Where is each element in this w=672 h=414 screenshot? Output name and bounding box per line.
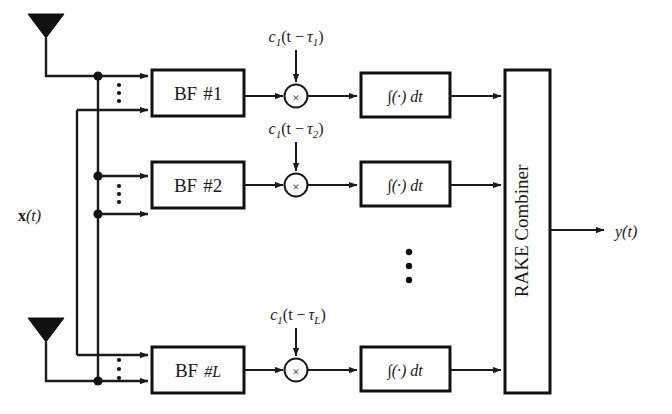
branch-ellipsis: [406, 249, 412, 283]
output-signal-label: y(t): [613, 223, 637, 241]
beamformer-label-L: BF#L: [175, 360, 221, 381]
input-signal-label: x(t): [18, 207, 41, 225]
beamformer-box-2[interactable]: [152, 162, 244, 208]
svg-text:x(t): x(t): [18, 207, 41, 225]
multiplier-symbol-2: ×: [292, 179, 299, 194]
rake-combiner-label: RAKE Combiner: [511, 164, 532, 297]
block-diagram-figure: x(t) BF#1 c1(t −τ1) × ∫(·) dt: [0, 0, 672, 414]
integrator-label-L: ∫(·) dt: [386, 362, 423, 381]
input-signal-label-vector: x: [18, 207, 26, 224]
branch-2-input-ellipsis: [117, 184, 121, 204]
canvas-background: [0, 0, 672, 414]
multiplier-symbol-1: ×: [292, 90, 299, 105]
integrator-label-2: ∫(·) dt: [386, 177, 423, 196]
rake-combiner[interactable]: RAKE Combiner: [505, 70, 550, 393]
branch-L-input-ellipsis: [117, 358, 121, 380]
input-signal-label-arg: (t): [26, 207, 41, 225]
branch-1-input-ellipsis: [117, 83, 121, 103]
integrator-label-1: ∫(·) dt: [386, 88, 423, 107]
multiplier-symbol-L: ×: [292, 364, 299, 379]
beamformer-box-1[interactable]: [152, 70, 244, 116]
